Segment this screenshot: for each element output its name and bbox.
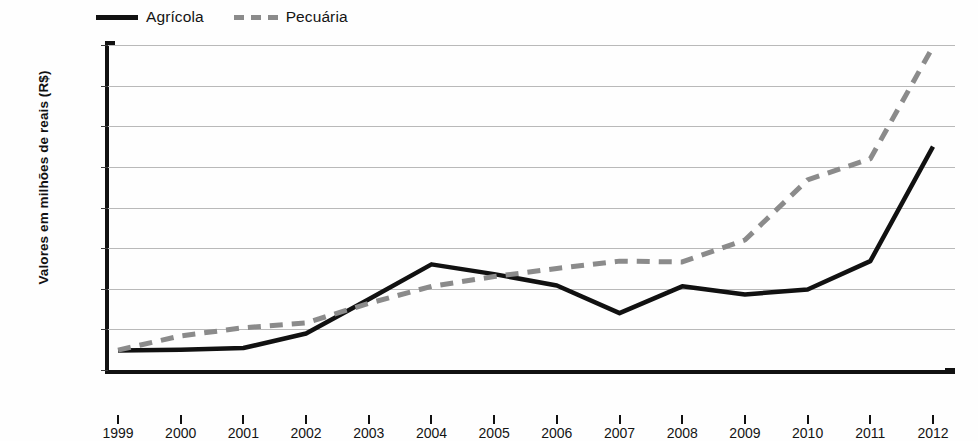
x-axis-tick-label: 2009 xyxy=(710,425,780,441)
legend-label-pecuaria: Pecuária xyxy=(286,8,348,26)
x-axis-line xyxy=(105,370,955,374)
x-axis-tick xyxy=(242,415,244,424)
legend-item-pecuaria: Pecuária xyxy=(234,8,348,26)
y-axis-tick xyxy=(101,370,108,371)
x-axis-tick-label: 2007 xyxy=(585,425,655,441)
y-axis-title: Valores em milhões de reais (R$) xyxy=(36,53,51,303)
legend-label-agricola: Agrícola xyxy=(146,8,204,26)
x-axis-tick-label: 2000 xyxy=(146,425,216,441)
x-axis-tick-label: 2008 xyxy=(647,425,717,441)
x-axis-tick-label: 2010 xyxy=(773,425,843,441)
x-axis-tick xyxy=(932,415,934,424)
y-axis-tick xyxy=(101,86,108,87)
legend-swatch-dashed-line-icon xyxy=(234,15,278,20)
x-axis-tick-label: 2006 xyxy=(522,425,592,441)
x-axis-tick-label: 2005 xyxy=(459,425,529,441)
y-axis-tick xyxy=(101,289,108,290)
x-axis-tick xyxy=(681,415,683,424)
y-axis-tick xyxy=(101,167,108,168)
series-lines xyxy=(108,45,955,370)
y-axis-tick xyxy=(101,208,108,209)
series-line-pecuria xyxy=(118,47,933,350)
legend-item-agricola: Agrícola xyxy=(96,8,204,26)
y-axis-tick xyxy=(101,126,108,127)
x-axis-tick-label: 2011 xyxy=(835,425,905,441)
legend-swatch-solid-line-icon xyxy=(96,15,138,20)
x-axis-tick-label: 2002 xyxy=(271,425,341,441)
x-axis-tick-label: 2003 xyxy=(334,425,404,441)
x-axis-tick-label: 2004 xyxy=(396,425,466,441)
x-axis-tick xyxy=(430,415,432,424)
x-axis-tick xyxy=(619,415,621,424)
x-axis-tick-label: 2012 xyxy=(898,425,968,441)
x-axis-tick xyxy=(807,415,809,424)
x-axis-tick xyxy=(180,415,182,424)
x-axis-tick xyxy=(493,415,495,424)
x-axis-tick-label: 2001 xyxy=(208,425,278,441)
y-axis-tick xyxy=(101,45,108,46)
x-axis-tick xyxy=(744,415,746,424)
y-axis-tick xyxy=(101,329,108,330)
y-axis-tick xyxy=(101,248,108,249)
x-axis-tick xyxy=(117,415,119,424)
plot-area: 05001.0001.5002.0002.5003.0003.5004.000 … xyxy=(108,45,955,370)
x-axis-tick xyxy=(869,415,871,424)
x-axis-tick xyxy=(368,415,370,424)
x-axis-tick-label: 1999 xyxy=(83,425,153,441)
x-axis-tick xyxy=(556,415,558,424)
chart-legend: Agrícola Pecuária xyxy=(96,8,348,26)
x-axis-tick xyxy=(305,415,307,424)
